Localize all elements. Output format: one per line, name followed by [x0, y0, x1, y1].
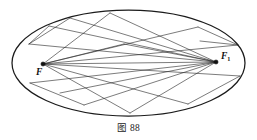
focal-chord	[43, 44, 124, 64]
focus-label-subscript: 1	[227, 55, 230, 62]
ellipse-figure-canvas: FF1	[0, 0, 257, 140]
focal-chord	[200, 41, 238, 45]
focal-chord	[43, 64, 188, 104]
focal-chord	[43, 64, 130, 113]
focal-chord	[84, 62, 216, 105]
focal-chord	[188, 76, 240, 104]
focal-chord	[43, 13, 110, 64]
figure-container: FF1 图 88	[0, 0, 257, 140]
focal-chord	[43, 62, 216, 64]
focus-point-f	[41, 62, 45, 66]
focus-point-f1	[214, 60, 218, 64]
focus-label-f: F	[35, 67, 43, 77]
chord-layer	[29, 13, 240, 113]
focus-label-f1: F1	[220, 51, 230, 62]
figure-caption: 图 88	[0, 120, 257, 134]
focal-chord	[110, 13, 216, 62]
focal-chord	[43, 64, 240, 76]
focal-chord	[30, 83, 84, 105]
focal-chord	[130, 62, 216, 113]
focal-chord	[124, 44, 216, 62]
focal-chord	[70, 18, 216, 62]
